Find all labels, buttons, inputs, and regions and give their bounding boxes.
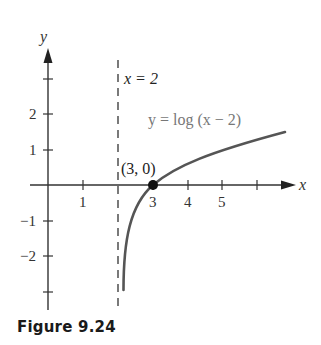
asymptote-label: x = 2 <box>123 70 158 87</box>
y-tick-label-2: 2 <box>29 106 37 122</box>
x-tick-label-5: 5 <box>218 194 226 210</box>
figure-caption: Figure 9.24 <box>17 318 116 336</box>
curve-label: y = log (x − 2) <box>148 111 241 129</box>
x-tick-label-4: 4 <box>184 194 192 210</box>
y-tick-label-neg2: −2 <box>20 248 36 264</box>
x-axis-arrow-icon <box>281 181 296 190</box>
y-tick-label-neg1: −1 <box>20 213 36 229</box>
y-axis-arrow-icon <box>44 48 53 63</box>
x-tick-label-3: 3 <box>149 194 157 210</box>
point-label: (3, 0) <box>121 160 156 178</box>
y-axis-label: y <box>38 28 48 46</box>
log-curve <box>124 132 286 290</box>
log-graph: y x 1 3 4 5 2 1 −1 −2 x = 2 y = log (x −… <box>0 0 321 345</box>
point-marker <box>148 180 158 190</box>
y-tick-label-1: 1 <box>29 142 37 158</box>
x-axis-label: x <box>298 176 306 193</box>
x-tick-label-1: 1 <box>79 194 87 210</box>
